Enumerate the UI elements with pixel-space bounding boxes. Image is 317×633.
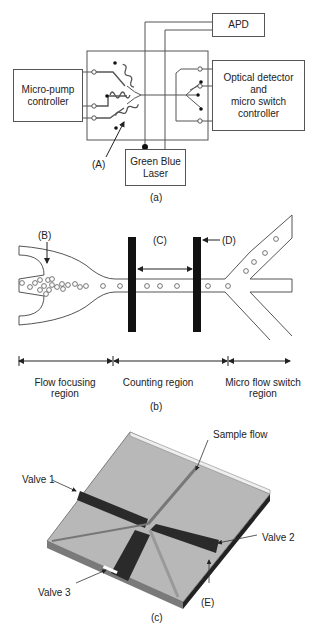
callout-d-label: (D) bbox=[222, 235, 236, 246]
optical-label-line4: controller bbox=[238, 108, 279, 120]
callout-c-label: (C) bbox=[153, 235, 167, 246]
sample-flow-label: Sample flow bbox=[213, 429, 267, 440]
region-label-switch: Micro flow switchregion bbox=[222, 377, 304, 399]
caption-b: (b) bbox=[150, 401, 162, 412]
laser-box: Green Blue Laser bbox=[125, 149, 186, 186]
valve-2-label: Valve 2 bbox=[262, 532, 295, 543]
callout-e-label: (E) bbox=[201, 597, 214, 608]
panel-c-chip-render bbox=[47, 432, 270, 609]
apd-box: APD bbox=[212, 13, 265, 37]
callout-b-label: (B) bbox=[38, 230, 51, 241]
optical-detector-box: Optical detector and micro switch contro… bbox=[212, 60, 305, 131]
panel-a-diagram bbox=[83, 22, 212, 157]
coil-top bbox=[116, 64, 140, 88]
apd-wire-2 bbox=[165, 30, 212, 149]
coil-bottom bbox=[115, 98, 139, 122]
coil-middle bbox=[110, 92, 130, 98]
callout-a-label: (A) bbox=[92, 159, 105, 170]
micro-pump-controller-box: Micro-pump controller bbox=[13, 69, 83, 122]
optical-label-line2: and bbox=[250, 84, 267, 96]
optical-label-line1: Optical detector bbox=[223, 72, 293, 84]
particles bbox=[20, 237, 279, 297]
laser-label-line1: Green Blue bbox=[130, 156, 181, 168]
caption-a: (a) bbox=[150, 192, 162, 203]
region-label-counting: Counting region bbox=[118, 377, 198, 388]
chip-surface bbox=[47, 432, 270, 602]
micro-pump-label-line1: Micro-pump bbox=[22, 84, 75, 96]
optical-label-line3: micro switch bbox=[231, 96, 286, 108]
caption-c: (c) bbox=[151, 612, 163, 623]
valve-3-label: Valve 3 bbox=[38, 587, 71, 598]
valve-1-label: Valve 1 bbox=[22, 474, 55, 485]
micro-pump-label-line2: controller bbox=[27, 96, 68, 108]
apd-label: APD bbox=[228, 19, 249, 31]
region-label-focusing: Flow focusingregion bbox=[30, 377, 100, 399]
laser-label-line2: Laser bbox=[143, 168, 168, 180]
